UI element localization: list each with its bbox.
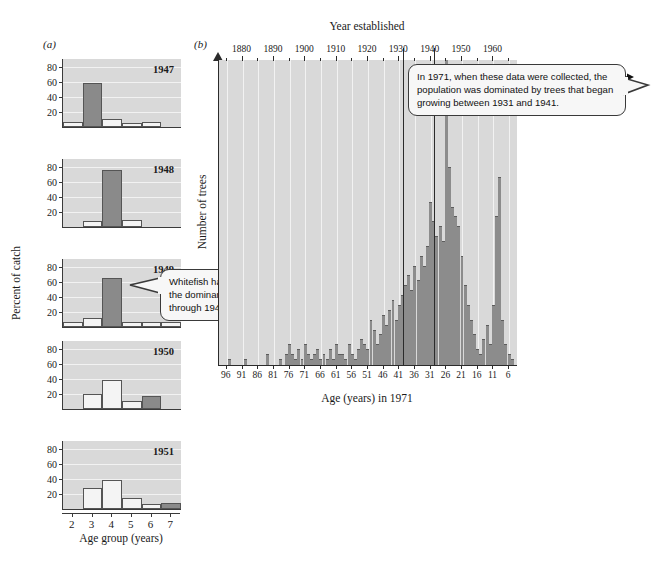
gridline — [63, 212, 181, 213]
top-tick-label: 1900 — [295, 44, 314, 54]
panel-a: (a) Percent of catch 2040608019472040608… — [0, 0, 195, 565]
bar-age-4 — [102, 480, 122, 509]
bottom-tick-label: 66 — [315, 370, 325, 380]
callout-a-tail — [128, 276, 168, 302]
callout-panel-b: In 1971, when these data were collected,… — [408, 64, 626, 116]
bar-age-4 — [102, 119, 122, 127]
panel-b-y-axis-label: Number of trees — [196, 175, 208, 250]
y-tick-label: 20 — [47, 106, 57, 117]
top-tick-minor — [414, 58, 415, 61]
bottom-tick-label: 71 — [300, 370, 310, 380]
top-tick-minor — [445, 58, 446, 61]
bar-age-6 — [142, 322, 162, 327]
bar-age-6 — [142, 396, 162, 409]
histogram-bar-age-90 — [244, 359, 247, 365]
bottom-tick — [492, 365, 493, 369]
x-tick-label: 4 — [108, 518, 114, 530]
bar-age-2 — [63, 322, 83, 327]
gridline — [63, 82, 181, 83]
x-tick — [111, 513, 112, 517]
bar-age-5 — [122, 220, 142, 227]
top-tick-label: 1950 — [452, 44, 471, 54]
top-tick-minor — [257, 58, 258, 61]
top-tick — [336, 56, 337, 61]
bottom-tick-label: 26 — [441, 370, 451, 380]
top-tick-minor — [351, 58, 352, 61]
bottom-tick-label: 6 — [506, 370, 511, 380]
bottom-tick-label: 41 — [394, 370, 404, 380]
gridline — [63, 464, 181, 465]
top-tick — [492, 56, 493, 61]
top-tick-minor — [508, 58, 509, 61]
gridline — [63, 182, 181, 183]
y-tick-label: 80 — [47, 261, 57, 272]
y-tick-label: 40 — [47, 373, 57, 384]
bottom-tick-label: 16 — [472, 370, 482, 380]
y-tick-label: 20 — [47, 488, 57, 499]
gridline — [63, 364, 181, 365]
x-tick — [151, 513, 152, 517]
bottom-tick-label: 96 — [221, 370, 231, 380]
bottom-tick — [273, 365, 274, 369]
bottom-tick — [461, 365, 462, 369]
panel-b-top-axis: 188018901900191019201930194019501960 — [218, 60, 516, 61]
bottom-tick — [336, 365, 337, 369]
bottom-tick — [320, 365, 321, 369]
bar-age-3 — [83, 488, 103, 509]
panel-a-chart-1950: 204060801950 — [62, 341, 181, 410]
gridline — [63, 112, 181, 113]
panel-b-top-axis-title: Year established — [218, 20, 516, 32]
bottom-tick — [351, 365, 352, 369]
y-tick-label: 60 — [47, 358, 57, 369]
top-tick — [461, 56, 462, 61]
gridline — [63, 379, 181, 380]
y-tick-label: 80 — [47, 443, 57, 454]
panel-a-chart-1948: 204060801948 — [62, 159, 181, 228]
chart-year-label: 1950 — [153, 346, 174, 357]
bar-age-4 — [102, 380, 122, 409]
top-tick — [430, 56, 431, 61]
bar-age-5 — [122, 401, 142, 409]
bar-age-3 — [83, 394, 103, 409]
x-tick — [72, 513, 73, 517]
bottom-tick — [257, 365, 258, 369]
bottom-tick — [304, 365, 305, 369]
bar-age-3 — [83, 318, 103, 327]
bottom-tick-label: 51 — [362, 370, 372, 380]
panel-a-chart-1951: 204060801951 — [62, 441, 181, 510]
top-tick-minor — [383, 58, 384, 61]
bottom-tick-label: 91 — [237, 370, 247, 380]
bottom-tick — [367, 365, 368, 369]
bar-age-5 — [122, 498, 142, 509]
panel-b-letter: (b) — [194, 38, 207, 50]
top-tick — [242, 56, 243, 61]
panel-b: (b) Year established Number of trees 188… — [190, 0, 535, 565]
gridline — [63, 394, 181, 395]
chart-year-label: 1951 — [153, 446, 174, 457]
bottom-tick — [383, 365, 384, 369]
histogram-bar-age-83 — [266, 354, 269, 365]
x-tick-label: 6 — [148, 518, 154, 530]
top-tick — [273, 56, 274, 61]
top-tick-minor — [477, 58, 478, 61]
bottom-tick-label: 21 — [456, 370, 466, 380]
panel-a-letter: (a) — [43, 38, 56, 50]
panel-a-chart-1947: 204060801947 — [62, 59, 181, 128]
gridline — [63, 494, 181, 495]
x-tick-label: 2 — [69, 518, 75, 530]
y-tick-label: 40 — [47, 291, 57, 302]
bottom-tick-label: 61 — [331, 370, 341, 380]
bottom-tick — [289, 365, 290, 369]
top-tick-label: 1960 — [483, 44, 502, 54]
y-tick-label: 20 — [47, 306, 57, 317]
bottom-tick-label: 31 — [425, 370, 435, 380]
bottom-tick — [508, 365, 509, 369]
bar-age-5 — [122, 123, 142, 127]
histogram-bar-age-79 — [279, 359, 282, 365]
y-tick-label: 40 — [47, 191, 57, 202]
bar-age-3 — [83, 221, 103, 227]
bottom-tick-label: 81 — [268, 370, 278, 380]
y-tick-label: 60 — [47, 176, 57, 187]
top-tick-label: 1910 — [326, 44, 345, 54]
